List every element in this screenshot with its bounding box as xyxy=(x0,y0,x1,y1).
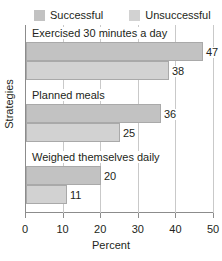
bar-planned-meals-successful[interactable] xyxy=(26,104,161,123)
unsuccessful-swatch-icon xyxy=(129,10,140,21)
legend-label-successful: Successful xyxy=(50,10,103,21)
x-tick-40 xyxy=(175,213,176,218)
chart-legend: Successful Unsuccessful xyxy=(34,6,218,24)
x-tick-label-10: 10 xyxy=(56,224,68,235)
plot-area: 0 10 20 30 40 50 Exercised 30 minutes a … xyxy=(25,25,213,213)
bar-weighed-unsuccessful[interactable] xyxy=(26,185,67,204)
bar-planned-meals-unsuccessful[interactable] xyxy=(26,123,120,142)
bar-exercised-successful[interactable] xyxy=(26,42,203,61)
bar-value-weighed-successful: 20 xyxy=(103,171,117,182)
group-label-exercised: Exercised 30 minutes a day xyxy=(30,27,169,39)
x-tick-50 xyxy=(213,213,214,218)
x-tick-20 xyxy=(100,213,101,218)
x-axis-line xyxy=(25,212,213,213)
legend-label-unsuccessful: Unsuccessful xyxy=(145,10,210,21)
bar-chart: Successful Unsuccessful 0 10 20 30 40 50 xyxy=(0,0,222,261)
x-tick-label-30: 30 xyxy=(132,224,144,235)
bar-weighed-successful[interactable] xyxy=(26,166,101,185)
x-axis-title: Percent xyxy=(0,239,222,251)
x-tick-label-0: 0 xyxy=(22,224,28,235)
bar-group-weighed: Weighed themselves daily 20 11 xyxy=(26,149,213,211)
bar-value-weighed-unsuccessful: 11 xyxy=(69,190,82,201)
bar-value-exercised-successful: 47 xyxy=(205,47,219,58)
bar-group-exercised: Exercised 30 minutes a day 47 38 xyxy=(26,25,213,87)
legend-item-successful: Successful xyxy=(34,10,103,21)
x-tick-label-20: 20 xyxy=(94,224,106,235)
bar-value-planned-meals-unsuccessful: 25 xyxy=(122,128,136,139)
group-label-weighed: Weighed themselves daily xyxy=(30,151,162,163)
bar-value-exercised-unsuccessful: 38 xyxy=(171,66,185,77)
x-tick-0 xyxy=(25,213,26,218)
group-label-planned-meals: Planned meals xyxy=(30,89,107,101)
successful-swatch-icon xyxy=(34,10,45,21)
x-tick-label-40: 40 xyxy=(169,224,181,235)
bar-group-planned-meals: Planned meals 36 25 xyxy=(26,87,213,149)
y-axis-title: Strategies xyxy=(3,64,15,144)
bar-value-planned-meals-successful: 36 xyxy=(163,109,177,120)
x-tick-10 xyxy=(63,213,64,218)
legend-item-unsuccessful: Unsuccessful xyxy=(129,10,210,21)
bar-exercised-unsuccessful[interactable] xyxy=(26,61,169,80)
x-tick-label-50: 50 xyxy=(207,224,219,235)
x-tick-30 xyxy=(138,213,139,218)
